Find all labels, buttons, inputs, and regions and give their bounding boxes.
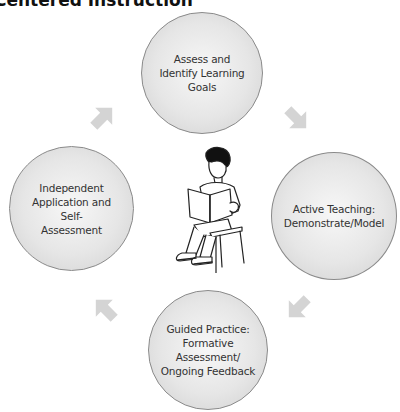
step-independent-label: Independent Application and Self- Assess… bbox=[10, 181, 133, 237]
step-assess-label: Assess and Identify Learning Goals bbox=[149, 52, 254, 94]
arrow-down-right-icon bbox=[282, 104, 312, 134]
step-independent-circle: Independent Application and Self- Assess… bbox=[9, 146, 134, 271]
step-active-teaching-circle: Active Teaching: Demonstrate/Model bbox=[271, 152, 397, 280]
step-guided-practice-label: Guided Practice: Formative Assessment/ O… bbox=[151, 322, 265, 378]
arrow-down-left-icon bbox=[283, 293, 313, 323]
diagram-title: Centered Instruction bbox=[0, 0, 193, 10]
step-guided-practice-circle: Guided Practice: Formative Assessment/ O… bbox=[148, 290, 268, 410]
child-reading-illustration bbox=[158, 145, 258, 273]
step-assess-circle: Assess and Identify Learning Goals bbox=[141, 12, 263, 134]
arrow-up-right-icon bbox=[88, 102, 118, 132]
step-active-teaching-label: Active Teaching: Demonstrate/Model bbox=[274, 202, 394, 230]
arrow-up-left-icon bbox=[90, 294, 120, 324]
